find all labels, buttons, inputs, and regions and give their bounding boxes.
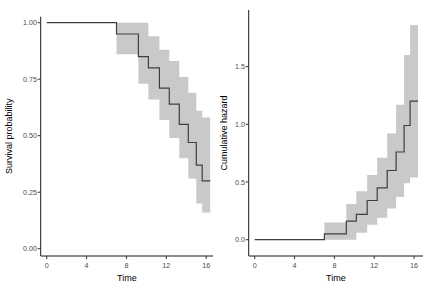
x-tick-label: 8 [332,261,336,270]
x-tick-label: 0 [45,261,49,270]
x-tick-label: 16 [410,261,418,270]
x-tick-label: 4 [293,261,297,270]
x-tick-label: 16 [202,261,210,270]
y-tick-label: 0.5 [235,178,245,187]
x-axis-title: Time [117,273,137,283]
y-tick-label: 0.50 [23,131,37,140]
x-axis-title: Time [326,273,346,283]
y-tick-label: 1.00 [23,18,37,27]
x-tick-label: 8 [124,261,128,270]
y-tick-label: 1.0 [235,120,245,129]
y-tick-label: 0.0 [235,235,245,244]
y-tick-label: 1.5 [235,62,245,71]
y-tick-label: 0.75 [23,75,37,84]
x-tick-label: 12 [162,261,170,270]
x-tick-label: 0 [253,261,257,270]
confidence-band-ribbon [117,23,211,213]
cumulative-hazard-plot: 04812160.00.51.01.5TimeCumulative hazard [218,0,436,294]
x-tick-label: 12 [370,261,378,270]
y-axis-title: Cumulative hazard [219,95,229,170]
step-curve [255,101,418,240]
survival-analysis-figure: 04812160.000.250.500.751.00TimeSurvival … [0,0,436,294]
survival-probability-plot: 04812160.000.250.500.751.00TimeSurvival … [0,0,218,294]
y-tick-label: 0.00 [23,244,37,253]
x-tick-label: 4 [85,261,89,270]
y-axis-title: Survival probability [4,98,14,174]
y-tick-label: 0.25 [23,188,37,197]
